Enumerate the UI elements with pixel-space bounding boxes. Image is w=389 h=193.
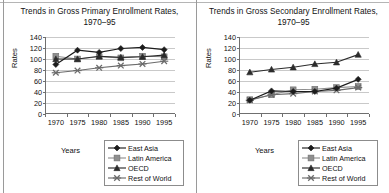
x-axis-tick-label: 1980 bbox=[285, 118, 301, 127]
y-axis-tick-label: 100 bbox=[224, 55, 236, 64]
legend-item[interactable]: East Asia bbox=[107, 143, 180, 153]
y-axis-tick-label: 20 bbox=[228, 99, 236, 108]
x-axis-tick bbox=[153, 114, 154, 117]
x-axis-tick bbox=[261, 114, 262, 117]
legend-item[interactable]: Latin America bbox=[107, 153, 180, 163]
x-axis-tick bbox=[369, 114, 370, 117]
y-axis-tick-label: 40 bbox=[34, 88, 42, 97]
x-axis-tick bbox=[110, 114, 111, 117]
x-axis-tick-label: 1990 bbox=[134, 118, 150, 127]
legend-marker-square-icon bbox=[301, 153, 321, 163]
chart-title-primary-line2: 1970–95 bbox=[3, 17, 196, 28]
x-axis-tick-label: 1970 bbox=[242, 118, 258, 127]
y-axis-title-secondary: Rates bbox=[204, 48, 213, 68]
y-axis-tick-label: 40 bbox=[228, 88, 236, 97]
y-axis-tick-label: 140 bbox=[30, 33, 42, 42]
y-axis-tick-label: 60 bbox=[228, 77, 236, 86]
y-axis-tick-label: 120 bbox=[224, 44, 236, 53]
legend-item[interactable]: Rest of World bbox=[107, 173, 180, 183]
legend-item-label: Latin America bbox=[321, 154, 366, 163]
series-oecd bbox=[247, 52, 362, 75]
legend-item[interactable]: East Asia bbox=[301, 143, 374, 153]
legend-item[interactable]: OECD bbox=[301, 163, 374, 173]
legend-marker-x-cross-icon bbox=[301, 173, 321, 183]
legend-marker-triangle-icon bbox=[107, 163, 127, 173]
series-rest-of-world bbox=[52, 58, 169, 75]
legend-item-label: OECD bbox=[321, 164, 343, 173]
x-axis-tick-label: 1985 bbox=[307, 118, 323, 127]
y-axis-tick-label: 20 bbox=[34, 99, 42, 108]
legend-item-label: OECD bbox=[127, 164, 149, 173]
legend-item-label: East Asia bbox=[321, 144, 352, 153]
legend-item[interactable]: Rest of World bbox=[301, 173, 374, 183]
legend-item-label: East Asia bbox=[127, 144, 158, 153]
x-axis-tick bbox=[326, 114, 327, 117]
x-axis-tick bbox=[304, 114, 305, 117]
x-axis-tick bbox=[347, 114, 348, 117]
x-axis-tick bbox=[45, 114, 46, 117]
figure-root: Trends in Gross Primary Enrollment Rates… bbox=[0, 0, 389, 193]
x-axis-title-secondary: Years bbox=[255, 146, 274, 155]
plot-area-secondary: 0204060801001201401970197519801985199019… bbox=[239, 37, 369, 114]
legend-secondary: East AsiaLatin AmericaOECDRest of World bbox=[298, 140, 378, 186]
chart-panel-primary: Trends in Gross Primary Enrollment Rates… bbox=[3, 0, 196, 193]
y-axis-tick-label: 0 bbox=[38, 110, 42, 119]
x-axis-tick bbox=[175, 114, 176, 117]
chart-title-secondary: Trends in Gross Secondary Enrollment Rat… bbox=[197, 6, 389, 28]
legend-marker-x-cross-icon bbox=[107, 173, 127, 183]
y-axis-tick-label: 80 bbox=[34, 66, 42, 75]
x-axis-tick-label: 1975 bbox=[69, 118, 85, 127]
chart-title-primary: Trends in Gross Primary Enrollment Rates… bbox=[3, 6, 196, 28]
legend-marker-triangle-icon bbox=[301, 163, 321, 173]
x-axis-tick-label: 1980 bbox=[91, 118, 107, 127]
y-axis-tick-label: 80 bbox=[228, 66, 236, 75]
legend-marker-diamond-icon bbox=[107, 143, 127, 153]
x-axis-tick-label: 1985 bbox=[113, 118, 129, 127]
chart-panel-secondary: Trends in Gross Secondary Enrollment Rat… bbox=[197, 0, 389, 193]
legend-item-label: Rest of World bbox=[127, 174, 171, 183]
y-axis-title-primary: Rates bbox=[10, 48, 19, 68]
y-axis-tick-label: 60 bbox=[34, 77, 42, 86]
y-axis-tick-label: 100 bbox=[30, 55, 42, 64]
legend-item-label: Latin America bbox=[127, 154, 172, 163]
legend-marker-square-icon bbox=[107, 153, 127, 163]
chart-title-primary-line1: Trends in Gross Primary Enrollment Rates… bbox=[21, 7, 179, 16]
y-axis-tick-label: 120 bbox=[30, 44, 42, 53]
chart-title-secondary-line1: Trends in Gross Secondary Enrollment Rat… bbox=[209, 7, 378, 16]
x-axis-tick-label: 1995 bbox=[350, 118, 366, 127]
x-axis-tick bbox=[132, 114, 133, 117]
chart-title-secondary-line2: 1970–95 bbox=[197, 17, 389, 28]
x-axis-tick-label: 1970 bbox=[48, 118, 64, 127]
series-layer bbox=[239, 37, 369, 114]
legend-item[interactable]: OECD bbox=[107, 163, 180, 173]
x-axis-tick-label: 1995 bbox=[156, 118, 172, 127]
series-layer bbox=[45, 37, 175, 114]
x-axis-title-primary: Years bbox=[61, 146, 80, 155]
legend-item-label: Rest of World bbox=[321, 174, 365, 183]
x-axis-tick-label: 1975 bbox=[263, 118, 279, 127]
legend-primary: East AsiaLatin AmericaOECDRest of World bbox=[104, 140, 184, 186]
x-axis-tick bbox=[88, 114, 89, 117]
x-axis-tick bbox=[282, 114, 283, 117]
legend-marker-diamond-icon bbox=[301, 143, 321, 153]
y-axis-tick-label: 0 bbox=[232, 110, 236, 119]
x-axis-tick bbox=[239, 114, 240, 117]
plot-area-primary: 0204060801001201401970197519801985199019… bbox=[45, 37, 175, 114]
x-axis-tick-label: 1990 bbox=[328, 118, 344, 127]
legend-item[interactable]: Latin America bbox=[301, 153, 374, 163]
x-axis-tick bbox=[67, 114, 68, 117]
y-axis-tick-label: 140 bbox=[224, 33, 236, 42]
